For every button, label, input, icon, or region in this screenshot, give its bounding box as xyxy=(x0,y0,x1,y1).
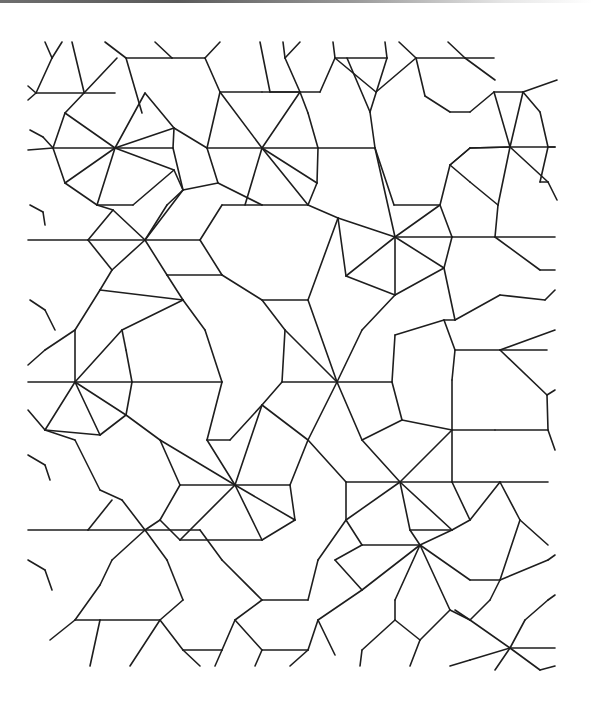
tiling-edge xyxy=(160,440,235,485)
tiling-edge xyxy=(425,96,450,112)
tiling-edge xyxy=(230,405,262,440)
tiling-edge xyxy=(262,405,308,440)
tiling-edge xyxy=(308,183,317,205)
tiling-edge xyxy=(290,650,308,666)
tiling-edge xyxy=(440,205,452,237)
tiling-edge xyxy=(548,430,555,450)
tiling-edge xyxy=(547,390,555,395)
tiling-edge xyxy=(75,290,100,330)
tiling-edge xyxy=(470,620,510,648)
tiling-edge xyxy=(335,545,362,560)
tiling-edge xyxy=(470,92,494,112)
tiling-edge xyxy=(126,350,132,382)
tiling-edge xyxy=(452,520,470,530)
tiling-edge xyxy=(362,295,395,330)
tiling-edge xyxy=(28,560,45,570)
tiling-edge xyxy=(540,147,548,182)
tiling-edge xyxy=(126,58,142,113)
tiling-edge xyxy=(285,330,337,382)
tiling-edge xyxy=(43,212,45,225)
tiling-edge xyxy=(525,600,548,620)
tiling-edge xyxy=(262,300,285,330)
tiling-edge xyxy=(416,58,425,96)
tiling-edge xyxy=(126,415,160,440)
tiling-edge xyxy=(160,620,183,650)
tiling-edge xyxy=(308,300,337,382)
tiling-edge xyxy=(500,330,555,350)
tiling-edge xyxy=(65,183,97,205)
tiling-edge xyxy=(173,128,174,148)
tiling-edge xyxy=(222,620,235,650)
tiling-edge xyxy=(510,147,548,182)
tiling-edge xyxy=(392,382,402,420)
tiling-edge xyxy=(548,182,557,200)
tiling-edge xyxy=(235,600,262,620)
tiling-edge xyxy=(395,320,444,335)
tiling-edge xyxy=(52,42,62,58)
tiling-edge xyxy=(28,410,45,430)
tiling-edge xyxy=(45,42,52,58)
tiling-edge xyxy=(88,500,112,530)
tiling-edge xyxy=(167,275,183,300)
tiling-edge xyxy=(90,620,100,666)
tiling-edge xyxy=(450,660,470,666)
tiling-drawing xyxy=(0,0,593,711)
tiling-edge xyxy=(100,490,122,500)
tiling-edge xyxy=(167,190,183,205)
tiling-edge xyxy=(220,92,262,148)
tiling-edge xyxy=(30,205,43,212)
tiling-edge xyxy=(285,42,300,58)
tiling-edge xyxy=(113,210,145,240)
tiling-edge xyxy=(36,58,52,93)
tiling-edge xyxy=(395,237,444,268)
tiling-edge xyxy=(45,465,50,480)
tiling-edge xyxy=(155,42,172,58)
tiling-edge xyxy=(318,520,346,560)
tiling-edge xyxy=(510,620,525,648)
tiling-edge xyxy=(308,560,318,600)
tiling-edge xyxy=(500,350,547,395)
tiling-edge xyxy=(308,113,318,148)
tiling-edge xyxy=(180,485,235,540)
tiling-edge xyxy=(65,93,84,113)
tiling-edge xyxy=(500,482,520,520)
tiling-edge xyxy=(84,58,117,93)
tiling-edge xyxy=(167,560,183,600)
tiling-edge xyxy=(28,455,45,465)
tiling-edge xyxy=(420,530,452,545)
tiling-edge xyxy=(465,58,495,80)
tiling-edge xyxy=(235,620,262,650)
tiling-edge xyxy=(207,440,235,485)
tiling-edge xyxy=(540,112,548,147)
tiling-edge xyxy=(105,42,126,58)
tiling-edge xyxy=(470,482,500,520)
tiling-edge xyxy=(215,650,222,666)
tiling-edge xyxy=(362,620,395,650)
tiling-edge xyxy=(523,80,557,92)
tiling-edge xyxy=(262,92,300,148)
tiling-edge xyxy=(122,330,126,350)
tiling-edge xyxy=(308,382,337,440)
tiling-edge xyxy=(115,148,174,170)
tiling-edge xyxy=(174,128,207,148)
tiling-edge xyxy=(440,165,450,205)
tiling-edge xyxy=(318,590,362,620)
tiling-edge xyxy=(45,382,75,430)
tiling-edge xyxy=(500,520,520,580)
tiling-edge xyxy=(452,482,470,520)
tiling-edge xyxy=(308,620,318,650)
tiling-edge xyxy=(262,520,295,540)
tiling-edge xyxy=(28,93,36,100)
tiling-edge xyxy=(130,620,160,666)
tiling-edge xyxy=(385,42,387,58)
tiling-edge xyxy=(145,530,167,560)
tiling-edge xyxy=(540,666,555,670)
tiling-edge xyxy=(53,148,65,183)
tiling-edge xyxy=(444,237,452,268)
tiling-edge xyxy=(145,520,160,530)
tiling-edge xyxy=(100,290,183,300)
tiling-edge xyxy=(45,330,75,350)
tiling-edge xyxy=(362,420,402,440)
tiling-edge xyxy=(337,330,362,382)
tiling-edge xyxy=(100,560,112,585)
